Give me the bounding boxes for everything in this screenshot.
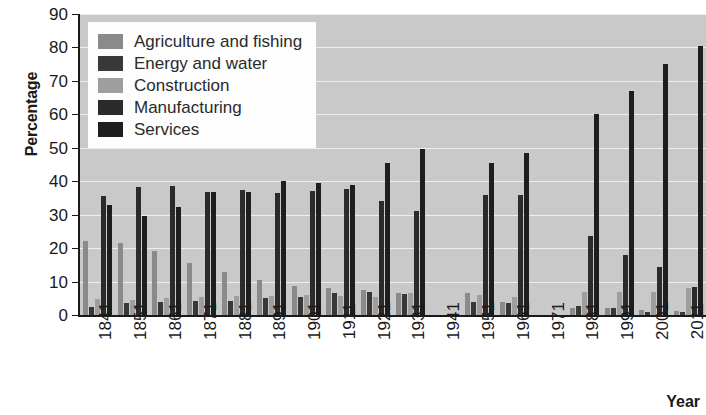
- bar[interactable]: [379, 201, 384, 315]
- bar[interactable]: [344, 189, 349, 315]
- bar[interactable]: [187, 263, 192, 315]
- legend-item[interactable]: Energy and water: [98, 52, 302, 74]
- bar[interactable]: [205, 192, 210, 315]
- chart-legend: Agriculture and fishingEnergy and waterC…: [88, 22, 316, 148]
- bar[interactable]: [471, 302, 476, 315]
- bar[interactable]: [228, 301, 233, 315]
- x-tick-cell: 1911: [323, 317, 358, 387]
- legend-item-label: Services: [134, 121, 199, 138]
- x-tick-cell: 1841: [80, 317, 115, 387]
- bar[interactable]: [246, 192, 251, 315]
- chart-root: Percentage 0102030405060708090 Agricultu…: [0, 0, 706, 415]
- x-tick-cell: 2011: [671, 317, 706, 387]
- bar[interactable]: [316, 183, 321, 315]
- bar[interactable]: [489, 163, 494, 315]
- bar[interactable]: [310, 191, 315, 315]
- bar[interactable]: [350, 185, 355, 315]
- bar[interactable]: [142, 216, 147, 315]
- bar[interactable]: [176, 207, 181, 315]
- bar[interactable]: [107, 205, 112, 315]
- bar-group: [358, 14, 393, 315]
- bar[interactable]: [465, 293, 470, 315]
- bar[interactable]: [298, 297, 303, 315]
- bar[interactable]: [698, 46, 703, 315]
- bar[interactable]: [645, 312, 650, 315]
- bar[interactable]: [257, 280, 262, 315]
- bar[interactable]: [483, 195, 488, 315]
- bar[interactable]: [570, 308, 575, 315]
- x-tick-label: 1991: [619, 302, 636, 340]
- bar[interactable]: [211, 192, 216, 315]
- bar[interactable]: [118, 243, 123, 315]
- bar[interactable]: [240, 190, 245, 315]
- bar[interactable]: [680, 312, 685, 315]
- x-tick-cell: 2001: [637, 317, 672, 387]
- bar[interactable]: [292, 286, 297, 315]
- bar[interactable]: [385, 163, 390, 315]
- bar[interactable]: [500, 302, 505, 315]
- bar-group: [428, 14, 463, 315]
- bar[interactable]: [420, 149, 425, 315]
- x-tick-cell: 1941: [428, 317, 463, 387]
- bar[interactable]: [101, 196, 106, 315]
- x-tick-cell: 1891: [254, 317, 289, 387]
- bar[interactable]: [639, 310, 644, 315]
- bar[interactable]: [663, 64, 668, 316]
- bar[interactable]: [367, 292, 372, 315]
- bar[interactable]: [402, 294, 407, 315]
- bar[interactable]: [193, 301, 198, 315]
- bar[interactable]: [674, 311, 679, 315]
- bar[interactable]: [124, 303, 129, 315]
- x-tick-label: 1871: [202, 302, 219, 340]
- bar[interactable]: [222, 272, 227, 315]
- bar-group: [637, 14, 672, 315]
- y-tick-label: 10: [49, 273, 68, 290]
- bar[interactable]: [524, 153, 529, 315]
- legend-swatch-icon: [98, 122, 123, 137]
- bar[interactable]: [414, 211, 419, 315]
- legend-swatch-icon: [98, 78, 123, 93]
- bar[interactable]: [629, 91, 634, 315]
- x-tick-cell: 1901: [289, 317, 324, 387]
- x-tick-label: 1861: [167, 302, 184, 340]
- x-tick-label: 2011: [689, 303, 706, 340]
- bar[interactable]: [576, 306, 581, 315]
- x-tick-cell: 1851: [115, 317, 150, 387]
- x-axis-tick-labels: 1841185118611871188118911901191119211931…: [80, 317, 706, 387]
- x-tick-label: 1941: [445, 302, 462, 340]
- x-tick-label: 1841: [97, 302, 114, 340]
- bar[interactable]: [136, 187, 141, 315]
- y-axis-tick-labels: 0102030405060708090: [34, 0, 68, 330]
- bar[interactable]: [170, 186, 175, 315]
- bar[interactable]: [605, 308, 610, 315]
- bar[interactable]: [275, 193, 280, 315]
- x-tick-label: 1891: [271, 302, 288, 340]
- bar[interactable]: [263, 298, 268, 315]
- y-tick-label: 0: [59, 307, 68, 324]
- bar[interactable]: [158, 302, 163, 315]
- bar[interactable]: [594, 114, 599, 315]
- bar[interactable]: [361, 290, 366, 315]
- x-tick-cell: 1991: [602, 317, 637, 387]
- legend-item[interactable]: Construction: [98, 74, 302, 96]
- bar[interactable]: [326, 288, 331, 315]
- y-tick-label: 40: [49, 173, 68, 190]
- bar[interactable]: [611, 308, 616, 315]
- x-tick-label: 1911: [341, 303, 358, 340]
- legend-item[interactable]: Agriculture and fishing: [98, 30, 302, 52]
- legend-item[interactable]: Services: [98, 118, 302, 140]
- x-tick-cell: 1871: [184, 317, 219, 387]
- bar[interactable]: [152, 251, 157, 315]
- bar[interactable]: [396, 293, 401, 315]
- x-tick-label: 1851: [132, 302, 149, 340]
- legend-swatch-icon: [98, 56, 123, 71]
- bar[interactable]: [332, 293, 337, 315]
- bar-group: [671, 14, 706, 315]
- x-tick-cell: 1931: [393, 317, 428, 387]
- bar[interactable]: [506, 303, 511, 315]
- bar[interactable]: [83, 241, 88, 315]
- bar[interactable]: [89, 307, 94, 315]
- legend-item[interactable]: Manufacturing: [98, 96, 302, 118]
- bar[interactable]: [281, 181, 286, 315]
- bar[interactable]: [518, 195, 523, 315]
